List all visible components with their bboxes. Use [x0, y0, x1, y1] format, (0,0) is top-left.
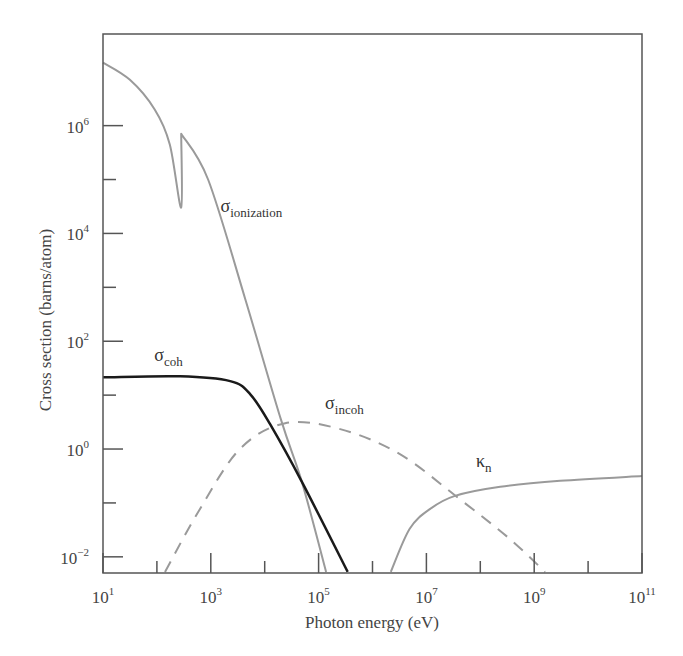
curve-ionization — [103, 63, 326, 572]
x-tick-label: 1011 — [628, 585, 656, 607]
curve-label-ionization: σionization — [221, 196, 283, 220]
y-tick-label: 104 — [67, 222, 90, 244]
y-axis-title: Cross section (barns/atom) — [36, 229, 55, 411]
y-tick-label: 102 — [67, 330, 90, 352]
curve-label-n: κn — [476, 451, 492, 475]
curve-label-coh: σcoh — [154, 345, 183, 369]
x-tick-label: 109 — [523, 585, 546, 607]
cross-section-chart: σionizationσcohσincohκn 1011031051071091… — [0, 0, 683, 656]
y-tick-label: 106 — [67, 115, 90, 137]
y-tick-label: 100 — [67, 438, 90, 460]
x-tick-label: 103 — [200, 585, 223, 607]
curve-labels: σionizationσcohσincohκn — [154, 196, 492, 475]
curves — [103, 63, 642, 572]
x-tick-label: 105 — [307, 585, 330, 607]
curve-coh — [103, 376, 348, 572]
y-tick-label: 10−2 — [60, 546, 89, 568]
y-axis: 10−2100102104106 — [60, 115, 123, 568]
x-tick-label: 107 — [415, 585, 438, 607]
plot-frame — [103, 34, 642, 573]
curve-label-incoh: σincoh — [325, 393, 364, 417]
x-axis-title: Photon energy (eV) — [305, 613, 439, 632]
curve-incoh — [165, 422, 545, 572]
x-tick-label: 101 — [92, 585, 115, 607]
x-axis: 1011031051071091011 — [92, 553, 656, 607]
curve-n — [391, 476, 642, 572]
